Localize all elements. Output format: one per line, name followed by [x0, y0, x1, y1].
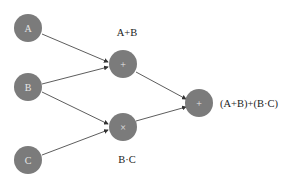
- label-result: (A+B)+(B·C): [220, 98, 278, 110]
- label-b-times-c: B·C: [118, 154, 136, 165]
- node-b: B: [14, 73, 42, 101]
- node-c-label: C: [25, 155, 32, 166]
- edge-multiply-to-final-add: [136, 107, 186, 121]
- multiply-icon: ×: [120, 122, 126, 133]
- label-a-plus-b: A+B: [117, 27, 138, 38]
- node-b-label: B: [25, 82, 32, 93]
- edge-add-to-final-add: [136, 72, 186, 99]
- node-add: +: [109, 50, 137, 78]
- node-a: A: [14, 14, 42, 42]
- node-c: C: [14, 146, 42, 174]
- node-a-label: A: [24, 23, 32, 34]
- edge-a-to-add: [42, 34, 108, 62]
- node-final-add: +: [185, 89, 213, 117]
- plus-icon: +: [196, 98, 202, 109]
- plus-icon: +: [120, 59, 126, 70]
- node-multiply: ×: [109, 113, 137, 141]
- edge-c-to-multiply: [42, 130, 108, 155]
- edge-b-to-add: [42, 67, 108, 84]
- edge-b-to-multiply: [42, 92, 108, 124]
- computation-graph: A B C + × + A+B B·C (A+B)+(B·C): [0, 0, 300, 188]
